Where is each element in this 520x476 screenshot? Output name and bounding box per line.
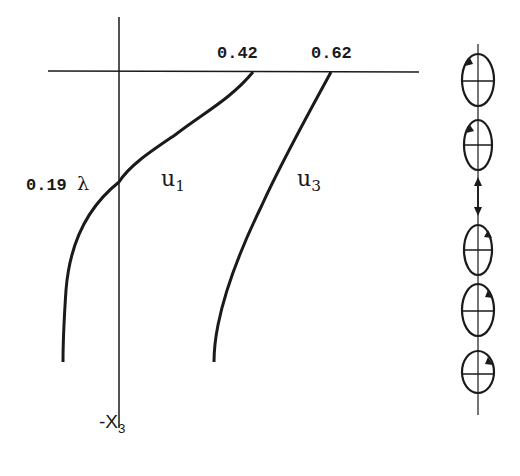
u3-curve <box>214 72 331 362</box>
node-double-arrow-icon <box>474 177 482 216</box>
rayleigh-wave-displacement-diagram: 0.42 0.62 0.19 λ u1 u3 -X3 <box>0 0 520 476</box>
surface-axis <box>48 71 419 72</box>
u1-surface-value-label: 0.42 <box>217 45 258 62</box>
crossing-depth-unit: λ <box>77 172 89 194</box>
u1-label-main: u <box>161 166 175 191</box>
crossing-depth-value: 0.19 <box>26 176 67 195</box>
u3-surface-value-label: 0.62 <box>311 45 352 62</box>
depth-axis-label: -X3 <box>99 412 125 435</box>
u3-curve-label: u3 <box>297 168 321 195</box>
u1-curve-label: u1 <box>161 168 185 195</box>
depth-axis-label-subscript: 3 <box>118 421 125 436</box>
depth-axis-label-main: -X <box>99 411 118 432</box>
u3-label-main: u <box>297 166 311 191</box>
u1-label-subscript: 1 <box>175 177 185 195</box>
diagram-svg <box>0 0 520 476</box>
u3-label-subscript: 3 <box>311 177 321 195</box>
u1-curve <box>63 72 253 362</box>
crossing-depth-label: 0.19 λ <box>26 174 89 194</box>
